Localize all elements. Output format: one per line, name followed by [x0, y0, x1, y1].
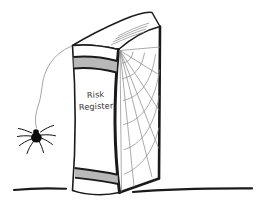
- book-side-face-fill: [119, 27, 161, 193]
- spider-head: [33, 129, 39, 134]
- book: Risk Register: [73, 12, 161, 194]
- illustration-canvas: Risk Register: [0, 0, 265, 212]
- book-title-line-2: Register: [79, 100, 115, 112]
- book-title-line-1: Risk: [87, 89, 105, 100]
- book-spider-illustration: Risk Register: [0, 0, 265, 212]
- book-outer-edge: [159, 27, 160, 179]
